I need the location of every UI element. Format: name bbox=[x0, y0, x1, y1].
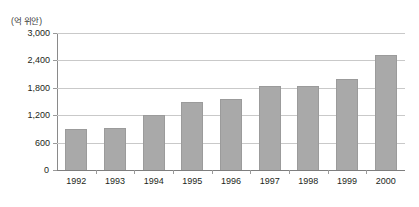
y-axis-unit-label: (억 위안) bbox=[11, 14, 42, 26]
bar-1996[interactable] bbox=[220, 99, 242, 170]
plot-area: 6001,2001,8002,4003,000 bbox=[57, 33, 405, 170]
y-axis-zero-label: 0 bbox=[44, 165, 49, 175]
y-axis-tick-label: 1,800 bbox=[27, 83, 50, 93]
bar-chart: (억 위안) 0 6001,2001,8002,4003,000 1992199… bbox=[0, 0, 419, 207]
y-axis-tick-label: 1,200 bbox=[27, 110, 50, 120]
x-axis-label-1995: 1995 bbox=[182, 176, 202, 186]
bar-slot bbox=[289, 33, 328, 170]
x-axis-label-1994: 1994 bbox=[144, 176, 164, 186]
bar-slot bbox=[96, 33, 135, 170]
axis-baseline bbox=[57, 170, 405, 171]
bar-1995[interactable] bbox=[181, 102, 203, 171]
bar-1994[interactable] bbox=[143, 115, 165, 170]
bar-slot bbox=[173, 33, 212, 170]
y-axis-tick bbox=[53, 170, 57, 171]
y-axis-tick-label: 2,400 bbox=[27, 55, 50, 65]
x-axis-label-1997: 1997 bbox=[260, 176, 280, 186]
y-axis-tick-label: 600 bbox=[35, 138, 50, 148]
bar-slot bbox=[328, 33, 367, 170]
x-axis-tick bbox=[96, 170, 97, 174]
x-axis-tick bbox=[328, 170, 329, 174]
bar-1997[interactable] bbox=[259, 86, 281, 170]
x-axis-tick bbox=[134, 170, 135, 174]
bar-slot bbox=[212, 33, 251, 170]
bar-slot bbox=[57, 33, 96, 170]
bar-series bbox=[57, 33, 405, 170]
bar-1999[interactable] bbox=[336, 79, 358, 170]
y-axis-tick-label: 3,000 bbox=[27, 28, 50, 38]
x-axis-label-2000: 2000 bbox=[376, 176, 396, 186]
x-axis-label-1998: 1998 bbox=[298, 176, 318, 186]
bar-slot bbox=[366, 33, 405, 170]
x-axis-tick bbox=[212, 170, 213, 174]
x-axis-label-1999: 1999 bbox=[337, 176, 357, 186]
bar-1998[interactable] bbox=[297, 86, 319, 170]
bar-slot bbox=[250, 33, 289, 170]
x-axis-tick bbox=[173, 170, 174, 174]
x-axis-tick bbox=[289, 170, 290, 174]
bar-1993[interactable] bbox=[104, 128, 126, 170]
x-axis-label-1993: 1993 bbox=[105, 176, 125, 186]
x-axis-label-1996: 1996 bbox=[221, 176, 241, 186]
bar-1992[interactable] bbox=[65, 129, 87, 170]
x-axis-label-1992: 1992 bbox=[66, 176, 86, 186]
bar-2000[interactable] bbox=[375, 55, 397, 170]
x-axis-tick bbox=[250, 170, 251, 174]
x-axis-tick bbox=[366, 170, 367, 174]
bar-slot bbox=[134, 33, 173, 170]
